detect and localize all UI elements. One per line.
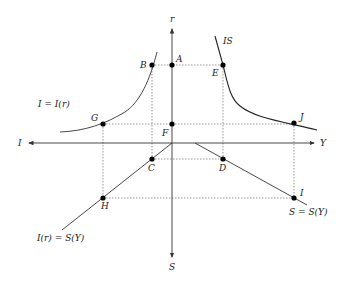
point-i bbox=[291, 195, 296, 200]
label-c: C bbox=[148, 163, 155, 173]
point-b bbox=[149, 62, 154, 67]
points bbox=[100, 62, 296, 200]
point-f bbox=[169, 121, 174, 126]
is-curve-derivation-diagram: r I Y S I = I(r) IS I(r) = S(Y) S = S(Y)… bbox=[0, 0, 345, 287]
saving-line-label: S = S(Y) bbox=[289, 207, 328, 217]
point-c bbox=[149, 156, 154, 161]
point-d bbox=[220, 156, 225, 161]
guide-lines bbox=[103, 65, 294, 198]
point-j bbox=[291, 120, 296, 125]
investment-curve-label: I = I(r) bbox=[37, 99, 70, 109]
label-e: E bbox=[211, 68, 219, 78]
axis-label-i: I bbox=[17, 138, 22, 148]
saving-line bbox=[195, 143, 307, 205]
axis-label-s: S bbox=[169, 262, 175, 272]
label-b: B bbox=[139, 60, 147, 70]
label-i: I bbox=[299, 188, 304, 198]
label-h: H bbox=[100, 201, 109, 211]
equilibrium-line bbox=[62, 143, 172, 230]
equilibrium-line-label: I(r) = S(Y) bbox=[36, 233, 85, 243]
is-curve-label: IS bbox=[222, 36, 233, 46]
point-a bbox=[169, 62, 174, 67]
point-g bbox=[100, 121, 105, 126]
point-e bbox=[220, 62, 225, 67]
point-h bbox=[100, 195, 105, 200]
axis-label-y: Y bbox=[320, 138, 327, 148]
label-f: F bbox=[161, 128, 169, 138]
label-j: J bbox=[298, 112, 305, 122]
label-g: G bbox=[91, 113, 98, 123]
label-d: D bbox=[218, 163, 226, 173]
axis-label-r: r bbox=[170, 14, 175, 24]
label-a: A bbox=[175, 54, 183, 64]
